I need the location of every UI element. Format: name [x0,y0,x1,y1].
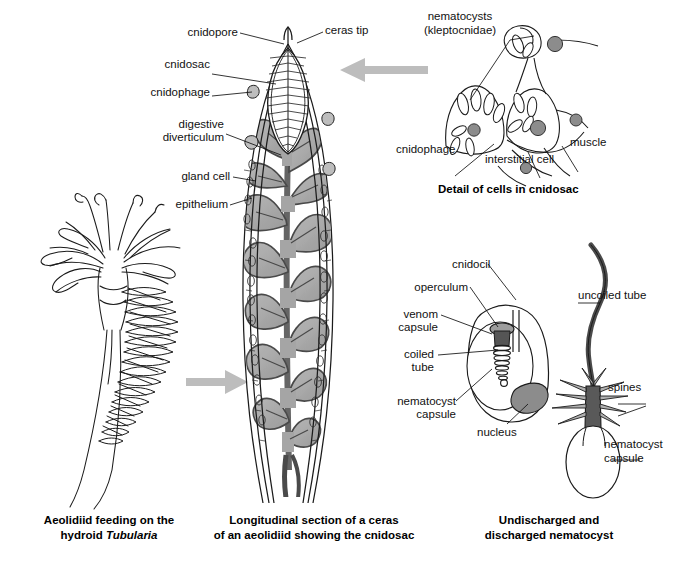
label-cnidocil: cnidocil [452,258,490,271]
label-detail-cnidophage: cnidophage [396,143,455,156]
label-ceras-tip: ceras tip [325,24,368,37]
figure-artwork [0,0,676,566]
label-uncoiled-tube: uncoiled tube [578,289,646,302]
ceras-illustration [212,27,335,503]
caption-nematocyst: Undischarged and discharged nematocyst [447,513,651,543]
label-nematocyst-capsule-line2: capsule [398,408,456,421]
caption-ceras-line1: Longitudinal section of a ceras [203,513,425,528]
caption-nematocyst-line2: discharged nematocyst [447,528,651,543]
label-discharged-capsule-line1: nematocyst [604,438,663,451]
ceras-arrow-icon [186,370,248,394]
label-coiled-tube-line1: coiled [390,348,434,361]
caption-nematocyst-line1: Undischarged and [447,513,651,528]
label-venom-capsule-line1: venom [390,308,438,321]
caption-hydroid-line2-pre: hydroid [61,529,106,541]
label-epithelium: epithelium [140,198,228,211]
label-digestive-diverticulum-line1: digestive [120,118,224,131]
label-gland-cell: gland cell [140,170,230,183]
label-digestive-diverticulum-line2: diverticulum [110,131,224,144]
label-nematocysts-line2: (kleptocnidae) [402,24,518,37]
caption-ceras-line2: of an aeolidiid showing the cnidosac [203,528,425,543]
label-nucleus: nucleus [477,426,517,439]
label-spines: spines [608,381,641,394]
label-discharged-capsule-line2: capsule [604,452,644,465]
label-muscle: muscle [570,136,606,149]
label-cnidophage: cnidophage [110,86,210,99]
heading-detail-of-cells: Detail of cells in cnidosac [438,183,579,195]
caption-ceras: Longitudinal section of a ceras of an ae… [203,513,425,543]
caption-hydroid: Aeolidiid feeding on the hydroid Tubular… [14,513,204,543]
hydroid-illustration [41,193,180,509]
label-interstitial-cell: interstitial cell [485,153,554,166]
figure-canvas: cnidopore ceras tip cnidosac cnidophage … [0,0,676,566]
label-nematocyst-capsule-line1: nematocyst [386,395,456,408]
label-venom-capsule-line2: capsule [386,321,438,334]
label-coiled-tube-line2: tube [404,361,434,374]
caption-hydroid-line2: hydroid Tubularia [14,528,204,543]
label-nematocysts-line1: nematocysts [408,10,512,23]
label-cnidopore: cnidopore [146,26,238,39]
detail-arrow-icon [340,58,428,82]
caption-hydroid-line1: Aeolidiid feeding on the [14,513,204,528]
label-operculum: operculum [400,281,468,294]
label-cnidosac: cnidosac [128,58,210,71]
caption-hydroid-genus: Tubularia [106,529,158,541]
